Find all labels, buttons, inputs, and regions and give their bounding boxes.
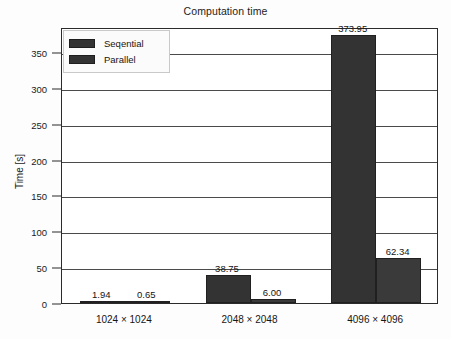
legend-swatch-parallel bbox=[69, 55, 95, 64]
legend-swatch-seqential bbox=[69, 39, 95, 48]
y-tick-mark bbox=[52, 304, 61, 305]
y-tick-mark bbox=[52, 232, 61, 233]
x-axis-category-label: 4096 × 4096 bbox=[347, 314, 403, 325]
bar-value-label: 6.00 bbox=[263, 287, 282, 298]
bar-parallel bbox=[125, 301, 170, 303]
gridline bbox=[62, 90, 437, 91]
y-tick-mark bbox=[52, 53, 61, 54]
legend-item-seqential[interactable]: Seqential bbox=[69, 35, 164, 51]
bar-seqential bbox=[331, 35, 376, 303]
y-tick-label: 100 bbox=[31, 227, 47, 238]
y-tick-label: 200 bbox=[31, 155, 47, 166]
legend-item-parallel[interactable]: Parallel bbox=[69, 51, 164, 67]
y-tick-label: 350 bbox=[31, 48, 47, 59]
y-tick-mark bbox=[52, 88, 61, 89]
y-tick-mark bbox=[52, 124, 61, 125]
bar-parallel bbox=[376, 258, 421, 303]
chart-screenshot: Computation time 050100150200250300350 T… bbox=[0, 0, 451, 339]
bar-value-label: 373.95 bbox=[338, 23, 367, 34]
bar-parallel bbox=[251, 299, 296, 303]
y-tick-label: 0 bbox=[42, 299, 47, 310]
legend-label-parallel: Parallel bbox=[104, 54, 136, 65]
y-tick-mark bbox=[52, 196, 61, 197]
x-axis-category-label: 2048 × 2048 bbox=[222, 314, 278, 325]
bar-value-label: 38.75 bbox=[215, 263, 239, 274]
y-tick-label: 150 bbox=[31, 191, 47, 202]
bar-value-label: 0.65 bbox=[137, 289, 156, 300]
bar-value-label: 1.94 bbox=[92, 289, 111, 300]
gridline bbox=[62, 126, 437, 127]
x-axis-category-label: 1024 × 1024 bbox=[96, 314, 152, 325]
y-tick-label: 250 bbox=[31, 119, 47, 130]
y-tick-mark bbox=[52, 268, 61, 269]
gridline bbox=[62, 197, 437, 198]
chart-title: Computation time bbox=[0, 5, 451, 17]
gridline bbox=[62, 233, 437, 234]
y-tick-mark bbox=[52, 160, 61, 161]
y-tick-label: 50 bbox=[36, 263, 47, 274]
bar-seqential bbox=[206, 275, 251, 303]
y-tick-label: 300 bbox=[31, 83, 47, 94]
chart-legend: Seqential Parallel bbox=[63, 30, 170, 73]
y-axis-title: Time [s] bbox=[14, 137, 25, 207]
y-axis: 050100150200250300350 bbox=[0, 0, 61, 339]
gridline bbox=[62, 162, 437, 163]
bar-value-label: 62.34 bbox=[386, 246, 410, 257]
legend-label-seqential: Seqential bbox=[104, 38, 144, 49]
bar-seqential bbox=[80, 301, 125, 303]
